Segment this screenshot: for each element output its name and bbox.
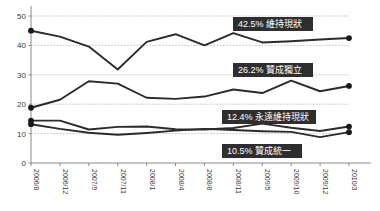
x-axis-tick-label: 2009/10 — [293, 169, 300, 194]
data-point-marker — [28, 105, 34, 111]
x-axis-tick-label: 2008/4 — [178, 169, 185, 191]
x-axis-tick-label: 2006/8 — [33, 169, 40, 191]
x-axis-tick-label: 2008/11 — [235, 169, 242, 194]
chart-canvas: 01020304050 2006/82006/122007/92007/1120… — [0, 0, 380, 211]
data-point-marker — [346, 129, 352, 135]
y-axis-tick-label: 0 — [22, 159, 27, 168]
series-end-label: 10.5% 贊成統一 — [222, 144, 302, 158]
data-point-marker — [346, 35, 352, 41]
series-end-label-text: 26.2% 贊成獨立 — [238, 64, 302, 75]
data-point-marker — [346, 83, 352, 89]
x-axis-tick-label: 2009/5 — [264, 169, 271, 191]
x-axis-tick-label: 2010/3 — [351, 169, 358, 191]
y-axis-tick-label: 50 — [17, 12, 26, 21]
x-axis-tick-label: 2008/1 — [149, 169, 156, 191]
data-point-marker — [28, 28, 34, 34]
data-point-marker — [28, 121, 34, 127]
series-end-label: 12.4% 永遠維持現狀 — [222, 110, 316, 124]
y-axis-tick-label: 10 — [17, 130, 26, 139]
y-axis-tick-label: 30 — [17, 71, 26, 80]
x-axis-tick-label: 2006/12 — [62, 169, 69, 194]
series-end-label-text: 12.4% 永遠維持現狀 — [227, 111, 309, 122]
data-point-marker — [346, 124, 352, 130]
series-end-label: 42.5% 維持現狀 — [233, 17, 313, 31]
x-axis-tick-label: 2007/9 — [91, 169, 98, 191]
x-axis-tick-label: 2008/8 — [206, 169, 213, 191]
y-axis-tick-label: 40 — [17, 41, 26, 50]
series-end-label-text: 42.5% 維持現狀 — [238, 18, 302, 29]
series-end-label-text: 10.5% 贊成統一 — [227, 145, 291, 156]
x-axis-tick-label: 2009/12 — [322, 169, 329, 194]
x-axis-tick-label: 2007/11 — [120, 169, 127, 194]
y-axis-tick-label: 20 — [17, 100, 26, 109]
line-chart: 01020304050 2006/82006/122007/92007/1120… — [0, 0, 380, 211]
series-end-label: 26.2% 贊成獨立 — [233, 63, 313, 77]
